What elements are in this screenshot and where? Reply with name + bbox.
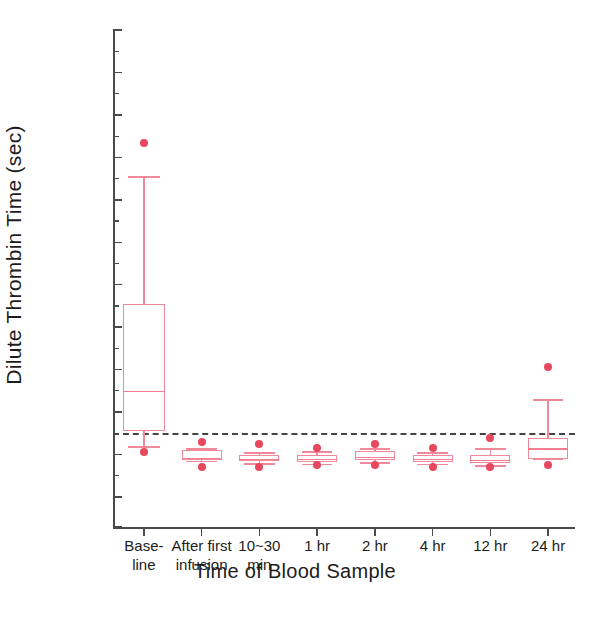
outlier-point bbox=[544, 363, 552, 371]
y-tick-100 bbox=[113, 157, 122, 159]
outlier-point bbox=[544, 461, 552, 469]
y-tick-40 bbox=[113, 411, 122, 413]
y-axis-title: Dilute Thrombin Time (sec) bbox=[2, 0, 26, 535]
y-tick-30 bbox=[113, 454, 122, 456]
y-tick-120 bbox=[113, 72, 122, 74]
x-tick-5 bbox=[432, 527, 434, 536]
whisker-cap-upper bbox=[360, 448, 390, 450]
x-tick-4 bbox=[374, 527, 376, 536]
x-tick-6 bbox=[490, 527, 492, 536]
x-tick-7 bbox=[547, 527, 549, 536]
outlier-point bbox=[371, 461, 379, 469]
y-tick-130 bbox=[113, 29, 122, 31]
outlier-point bbox=[429, 463, 437, 471]
outlier-point bbox=[486, 434, 494, 442]
whisker-cap-upper bbox=[128, 176, 160, 178]
whisker-cap-lower bbox=[128, 446, 160, 448]
median-line bbox=[355, 457, 395, 459]
y-tick-50 bbox=[113, 369, 122, 371]
y-tick-90 bbox=[113, 199, 122, 201]
median-line bbox=[528, 448, 568, 450]
boxplot-figure: Dilute Thrombin Time (sec) 0203040506070… bbox=[0, 0, 590, 618]
y-minor-tick-45 bbox=[113, 390, 119, 391]
x-tick-2 bbox=[259, 527, 261, 536]
x-axis-title: Time of Blood Sample bbox=[0, 560, 590, 583]
y-tick-110 bbox=[113, 114, 122, 116]
whisker-cap-lower bbox=[186, 461, 216, 463]
whisker-upper bbox=[143, 176, 144, 303]
x-tick-label-7: 24 hr bbox=[506, 536, 590, 555]
outlier-point bbox=[255, 463, 263, 471]
median-line bbox=[470, 460, 510, 462]
y-minor-tick-105 bbox=[113, 136, 119, 137]
x-tick-1 bbox=[201, 527, 203, 536]
box-iqr bbox=[355, 451, 395, 459]
outlier-point bbox=[198, 438, 206, 446]
median-line bbox=[413, 459, 453, 461]
y-minor-tick-125 bbox=[113, 51, 119, 52]
y-minor-tick-95 bbox=[113, 178, 119, 179]
median-line bbox=[123, 391, 165, 393]
whisker-cap-upper bbox=[475, 448, 505, 450]
outlier-point bbox=[313, 461, 321, 469]
outlier-point bbox=[140, 139, 148, 147]
plot-area: 02030405060708090100110120130 Base- line… bbox=[113, 30, 575, 527]
y-minor-tick-115 bbox=[113, 93, 119, 94]
whisker-cap-lower bbox=[533, 459, 563, 461]
outlier-point bbox=[429, 444, 437, 452]
outlier-point bbox=[255, 440, 263, 448]
y-minor-tick-85 bbox=[113, 220, 119, 221]
y-tick-0 bbox=[113, 526, 122, 528]
reference-line bbox=[113, 433, 575, 435]
x-tick-0 bbox=[143, 527, 145, 536]
y-minor-tick-75 bbox=[113, 263, 119, 264]
outlier-point bbox=[486, 463, 494, 471]
outlier-point bbox=[198, 463, 206, 471]
y-tick-70 bbox=[113, 284, 122, 286]
whisker-upper bbox=[547, 399, 548, 437]
y-tick-60 bbox=[113, 326, 122, 328]
median-line bbox=[239, 459, 279, 461]
y-minor-tick-65 bbox=[113, 305, 119, 306]
x-axis-line bbox=[113, 527, 575, 529]
x-tick-3 bbox=[316, 527, 318, 536]
y-minor-tick-25 bbox=[113, 475, 119, 476]
median-line bbox=[182, 458, 222, 460]
y-tick-80 bbox=[113, 242, 122, 244]
median-line bbox=[297, 459, 337, 461]
y-minor-tick-35 bbox=[113, 433, 119, 434]
y-minor-tick-55 bbox=[113, 348, 119, 349]
y-axis-line bbox=[113, 30, 115, 527]
outlier-point bbox=[140, 448, 148, 456]
y-tick-20 bbox=[113, 496, 122, 498]
whisker-lower bbox=[143, 431, 144, 446]
box-iqr bbox=[123, 304, 165, 431]
whisker-cap-upper bbox=[533, 399, 563, 401]
outlier-point bbox=[371, 440, 379, 448]
